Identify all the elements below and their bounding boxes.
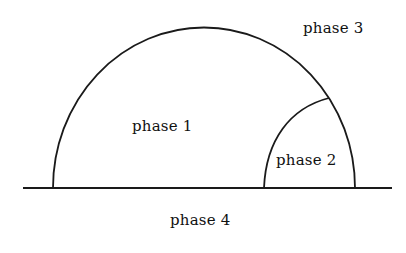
phase1-phase2-boundary bbox=[264, 98, 329, 188]
label-phase-2: phase 2 bbox=[276, 153, 337, 168]
label-phase-4: phase 4 bbox=[170, 213, 231, 228]
label-phase-1: phase 1 bbox=[132, 119, 193, 134]
label-phase-3: phase 3 bbox=[303, 21, 364, 36]
